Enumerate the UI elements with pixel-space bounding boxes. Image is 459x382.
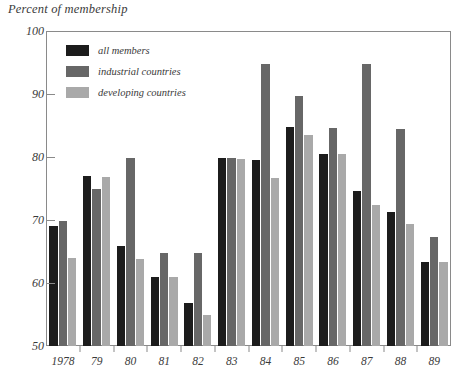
x-axis-tick-label: 83 (226, 355, 238, 367)
x-axis-tick-mark (417, 346, 418, 352)
bar (160, 253, 168, 346)
bar (338, 154, 346, 346)
bar (117, 246, 125, 346)
bar-chart-figure: Percent of membership 5060708090100 all … (0, 0, 459, 382)
bar (406, 224, 414, 346)
bar (329, 128, 337, 346)
x-axis-tick-label: 79 (91, 355, 103, 367)
bar (396, 129, 404, 346)
x-axis-tick-mark (181, 346, 182, 352)
bar (353, 191, 361, 346)
x-axis-tick-mark (282, 346, 283, 352)
x-axis-tick-label: 85 (293, 355, 305, 367)
y-axis-tick-mark (46, 157, 55, 158)
x-axis-tick-label: 89 (428, 355, 440, 367)
legend-item: industrial countries (66, 63, 186, 80)
x-axis-tick-mark (79, 346, 80, 352)
x-axis-tick-mark (147, 346, 148, 352)
legend-item-label: industrial countries (98, 66, 181, 77)
bar (68, 258, 76, 346)
bar (237, 159, 245, 346)
bar (319, 154, 327, 346)
bar (169, 277, 177, 346)
bar (184, 303, 192, 346)
bar (126, 158, 134, 346)
x-axis-tick-label: 84 (260, 355, 272, 367)
x-axis-tick-label: 86 (327, 355, 339, 367)
bar (59, 221, 67, 346)
x-axis-tick-label: 88 (395, 355, 407, 367)
legend-item: all members (66, 42, 186, 59)
bar (430, 237, 438, 346)
x-axis-tick-mark (248, 346, 249, 352)
legend-item-label: developing countries (98, 87, 186, 98)
bar (362, 64, 370, 346)
x-axis-tick-mark (383, 346, 384, 352)
x-axis-tick-label: 1978 (51, 355, 74, 367)
x-axis-tick-label: 81 (158, 355, 170, 367)
x-axis-tick-mark (349, 346, 350, 352)
bar (372, 205, 380, 346)
y-axis-tick-mark (46, 220, 55, 221)
legend-color-swatch (66, 66, 89, 77)
bar (439, 262, 447, 346)
bar (136, 259, 144, 346)
bar (387, 212, 395, 346)
bar (102, 177, 110, 346)
bar (194, 253, 202, 346)
bar (261, 64, 269, 346)
y-axis-tick-mark (46, 94, 55, 95)
x-axis-tick-mark (214, 346, 215, 352)
legend-color-swatch (66, 45, 89, 56)
x-axis-tick-label: 80 (125, 355, 137, 367)
bar (295, 96, 303, 346)
bar (92, 189, 100, 347)
legend-item-label: all members (98, 45, 150, 56)
x-axis-tick-label: 82 (192, 355, 204, 367)
x-axis-tick-mark (113, 346, 114, 352)
bar (286, 127, 294, 346)
legend-item: developing countries (66, 84, 186, 101)
bar (304, 135, 312, 346)
bar (151, 277, 159, 346)
bar (218, 158, 226, 346)
bar (49, 226, 57, 346)
bar (203, 315, 211, 347)
bar (271, 178, 279, 346)
legend-color-swatch (66, 87, 89, 98)
bar (83, 176, 91, 346)
bar (227, 158, 235, 346)
bar (421, 262, 429, 346)
x-axis-tick-mark (316, 346, 317, 352)
x-axis-tick-label: 87 (361, 355, 373, 367)
bar (252, 160, 260, 346)
y-axis-tick-mark (46, 283, 55, 284)
chart-legend: all membersindustrial countriesdevelopin… (66, 42, 186, 105)
